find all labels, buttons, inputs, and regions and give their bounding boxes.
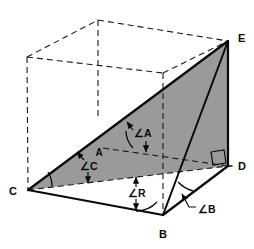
box-edge-vertical-left [27, 57, 28, 190]
geometry-figure: E C D B A ∠A ∠C ∠R ∠B [0, 0, 254, 249]
point-label-a: A [95, 147, 102, 158]
figure-canvas: E C D B A ∠A ∠C ∠R ∠B [0, 0, 254, 249]
box-edge-top-front-left [27, 57, 163, 73]
box-edge-top-back-left [27, 20, 98, 57]
angle-label-c: ∠C [80, 160, 98, 172]
vertex-label-c: C [9, 185, 17, 197]
vertex-label-e: E [238, 32, 245, 44]
angle-label-b: ∠B [198, 203, 216, 215]
vertex-label-d: D [238, 160, 246, 172]
box-edge-top-back-ridge [98, 20, 228, 41]
angle-label-a: ∠A [134, 127, 152, 139]
angle-label-r: ∠R [128, 187, 146, 199]
vertex-label-b: B [159, 228, 167, 240]
